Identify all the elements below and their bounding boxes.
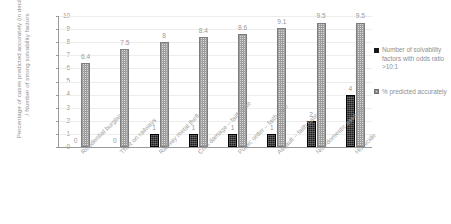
bar-percent-predicted[interactable]	[356, 23, 365, 147]
bar-value-label: 8	[155, 33, 174, 40]
bar-solvability-factors[interactable]	[189, 134, 198, 147]
legend-label: Number of solvability factors with odds …	[382, 46, 451, 72]
bar-chart: Percentage of cases predicted accurately…	[0, 0, 451, 224]
bar-percent-predicted[interactable]	[160, 42, 169, 147]
legend-item-percent-predicted[interactable]: % predicted accurately	[374, 88, 451, 97]
bar-group: 06.4	[58, 16, 97, 147]
legend-label: % predicted accurately	[382, 88, 451, 97]
bar-value-label: 9.1	[272, 19, 291, 26]
bar-percent-predicted[interactable]	[277, 28, 286, 147]
bar-solvability-factors[interactable]	[150, 134, 159, 147]
y-axis-title: Percentage of cases predicted accurately…	[15, 0, 32, 139]
bar-value-label: 8.4	[194, 28, 213, 35]
bar-value-label: 6.4	[76, 54, 95, 61]
bar-solvability-factors[interactable]	[267, 134, 276, 147]
bar-solvability-factors[interactable]	[228, 134, 237, 147]
bar-percent-predicted[interactable]	[238, 34, 247, 147]
bar-value-label: 8.6	[233, 25, 252, 32]
bar-value-label: 7.5	[115, 40, 134, 47]
legend-item-solvability-factors[interactable]: Number of solvability factors with odds …	[374, 46, 451, 72]
pattern-square-icon	[374, 89, 379, 94]
bar-percent-predicted[interactable]	[317, 23, 326, 147]
bar-value-label: 9.5	[351, 13, 370, 20]
bar-percent-predicted[interactable]	[199, 37, 208, 147]
chart-legend: Number of solvability factors with odds …	[374, 46, 451, 112]
bar-percent-predicted[interactable]	[81, 63, 90, 147]
bar-value-label: 9.5	[312, 13, 331, 20]
dark-square-icon	[374, 48, 379, 53]
bar-percent-predicted[interactable]	[120, 49, 129, 147]
